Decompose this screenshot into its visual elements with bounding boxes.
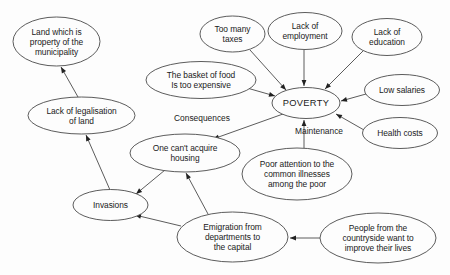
arrow-head-icon	[302, 80, 307, 86]
arrow-head-icon	[290, 236, 296, 241]
arrow-head-icon	[341, 97, 347, 102]
node-ellipse-lack-legalisation[interactable]	[28, 97, 135, 134]
node-ellipse-emigration-capital[interactable]	[177, 212, 288, 262]
node-ellipse-lack-employment[interactable]	[268, 13, 342, 50]
edge-line	[135, 215, 181, 226]
edge-education-to-poverty	[325, 51, 363, 89]
nodes-layer	[13, 13, 440, 264]
edge-taxes-to-poverty	[250, 50, 286, 90]
node-ellipse-low-salaries[interactable]	[365, 75, 440, 106]
node-ellipse-land-municipality[interactable]	[13, 17, 100, 66]
edge-housing-to-invasions	[136, 170, 165, 194]
node-ellipse-too-many-taxes[interactable]	[200, 16, 265, 52]
concept-map-canvas: Land which is property of the municipali…	[0, 0, 450, 275]
edge-line	[250, 50, 286, 90]
edge-line	[325, 51, 363, 89]
edge-invasions-to-lack-legalisation	[86, 135, 110, 190]
node-ellipse-lack-education[interactable]	[352, 19, 422, 56]
arrow-head-icon	[86, 135, 91, 141]
edge-line	[186, 173, 208, 214]
node-ellipse-cant-acquire-housing[interactable]	[130, 134, 240, 172]
node-ellipse-countryside-people[interactable]	[320, 213, 436, 263]
edge-label-maintenance: Maintenance	[295, 126, 343, 136]
edge-lack-legalisation-to-land	[61, 67, 78, 97]
concept-map-svg	[0, 0, 450, 275]
arrow-head-icon	[336, 114, 342, 119]
node-ellipse-basket-of-food[interactable]	[146, 62, 256, 99]
arrow-head-icon	[61, 67, 66, 73]
edge-employment-to-poverty	[302, 50, 307, 86]
edge-countryside-to-emigration	[290, 236, 320, 241]
edge-label-consequences: Consequences	[174, 113, 230, 123]
arrow-head-icon	[269, 92, 275, 97]
edge-line	[86, 135, 110, 190]
node-ellipse-poverty[interactable]	[272, 88, 340, 119]
edge-basket-to-poverty	[247, 88, 275, 97]
node-ellipse-health-costs[interactable]	[363, 118, 438, 149]
edge-emigration-to-housing	[186, 173, 208, 214]
edge-emigration-to-invasions	[135, 214, 181, 226]
arrow-head-icon	[186, 173, 191, 179]
node-ellipse-poor-attention-illnesses[interactable]	[242, 148, 352, 200]
node-ellipse-invasions[interactable]	[73, 190, 148, 221]
edge-low-salaries-to-poverty	[341, 94, 366, 102]
